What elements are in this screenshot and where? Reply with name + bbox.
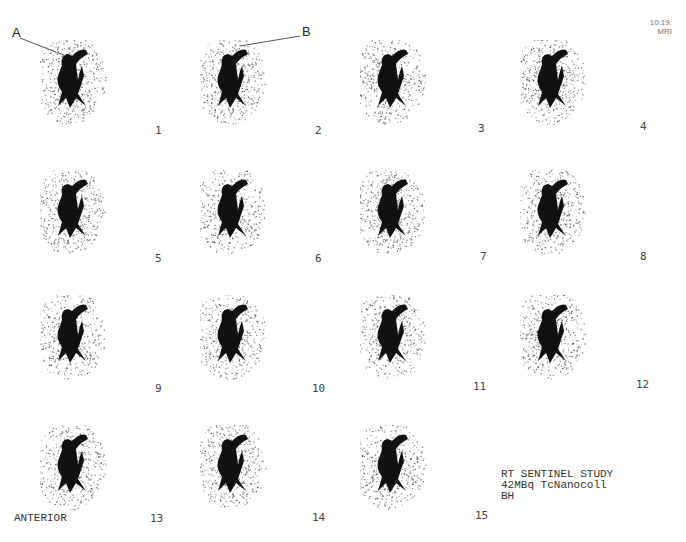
annotation-lines xyxy=(0,0,686,542)
corner-info: 10:19: MRI xyxy=(650,18,672,36)
corner-mri: MRI xyxy=(650,27,672,36)
study-info: RT SENTINEL STUDY42MBq TcNanocollBH xyxy=(501,469,613,502)
view-label: ANTERIOR xyxy=(14,512,67,524)
study-initials: BH xyxy=(501,491,613,502)
corner-time: 10:19: xyxy=(650,18,672,27)
study-dose: 42MBq TcNanocoll xyxy=(501,480,613,491)
